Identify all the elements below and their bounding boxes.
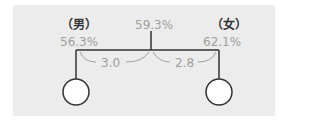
female-circle-icon (206, 79, 232, 105)
right-arc-start (153, 52, 170, 62)
diff-right: 2.8 (175, 56, 194, 70)
female-value: 62.1% (203, 35, 241, 49)
male-value: 56.3% (60, 35, 98, 49)
male-circle-icon (63, 79, 89, 105)
left-arc-start (80, 52, 96, 62)
right-arc-end (198, 52, 216, 62)
female-label: （女） (211, 18, 247, 32)
male-label: （男） (61, 18, 97, 32)
diff-left: 3.0 (101, 56, 120, 70)
left-arc-end (126, 52, 149, 62)
center-value: 59.3% (135, 18, 173, 32)
